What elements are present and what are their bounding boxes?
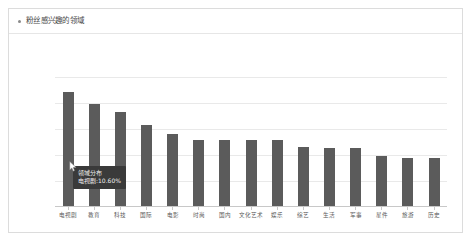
axis-tick xyxy=(251,207,252,210)
bar[interactable] xyxy=(63,92,74,206)
tick-slot xyxy=(238,207,264,211)
axis-tick xyxy=(277,207,278,210)
axis-tick xyxy=(146,207,147,210)
bar-slot[interactable] xyxy=(290,77,316,206)
bar[interactable] xyxy=(272,140,283,206)
page-title: 粉丝感兴趣的领域 xyxy=(26,17,84,25)
axis-tick xyxy=(407,207,408,210)
x-axis-label: 教育 xyxy=(88,213,100,219)
axis-tick xyxy=(68,207,69,210)
x-label-slot: 国际 xyxy=(133,213,159,219)
x-axis-label: 生活 xyxy=(323,213,335,219)
bar[interactable] xyxy=(376,156,387,206)
tooltip-title: 领域分布 xyxy=(78,169,121,177)
bar[interactable] xyxy=(219,140,230,206)
bar-slot[interactable] xyxy=(369,77,395,206)
bar[interactable] xyxy=(89,104,100,206)
axis-tick xyxy=(198,207,199,210)
bar[interactable] xyxy=(324,148,335,206)
x-axis-label: 时尚 xyxy=(193,213,205,219)
axis-tick xyxy=(434,207,435,210)
bar-slot[interactable] xyxy=(316,77,342,206)
bar[interactable] xyxy=(402,158,413,206)
fan-interest-card: 粉丝感兴趣的领域 xyxy=(8,8,463,233)
x-label-slot: 电影 xyxy=(160,213,186,219)
bar-slot[interactable] xyxy=(133,77,159,206)
chart-tooltip: 领域分布 电视剧:10.60% xyxy=(73,166,126,189)
x-label-slot: 生活 xyxy=(316,213,342,219)
bar[interactable] xyxy=(298,147,309,206)
axis-tick xyxy=(303,207,304,210)
x-axis-label: 旅游 xyxy=(402,213,414,219)
bar-slot[interactable] xyxy=(421,77,447,206)
axis-tick xyxy=(224,207,225,210)
tick-slot xyxy=(369,207,395,211)
x-label-slot: 综艺 xyxy=(290,213,316,219)
x-axis-ticks xyxy=(55,207,447,211)
tick-slot xyxy=(107,207,133,211)
x-label-slot: 文化艺术 xyxy=(238,213,264,219)
x-label-slot: 科技 xyxy=(107,213,133,219)
x-axis-label: 文化艺术 xyxy=(239,213,263,219)
pointer-cursor-icon xyxy=(69,158,78,170)
bar-slot[interactable] xyxy=(186,77,212,206)
screenshot-root: 粉丝感兴趣的领域 xyxy=(0,0,471,244)
tick-slot xyxy=(395,207,421,211)
bar-chart: 电视剧 教育 科技 国际 电影 时尚 国内 文化艺术 娱乐 综艺 生活 军事 星… xyxy=(9,35,462,232)
bullet-dot-icon xyxy=(18,20,21,23)
x-axis-label: 娱乐 xyxy=(271,213,283,219)
x-label-slot: 旅游 xyxy=(395,213,421,219)
x-label-slot: 军事 xyxy=(343,213,369,219)
tick-slot xyxy=(55,207,81,211)
x-axis-label: 历史 xyxy=(428,213,440,219)
x-label-slot: 教育 xyxy=(81,213,107,219)
axis-tick xyxy=(94,207,95,210)
bar-slot[interactable] xyxy=(212,77,238,206)
tick-slot xyxy=(160,207,186,211)
tooltip-value: 电视剧:10.60% xyxy=(78,177,121,185)
bar[interactable] xyxy=(193,140,204,206)
bar-slot[interactable] xyxy=(160,77,186,206)
tick-slot xyxy=(186,207,212,211)
x-axis-label: 科技 xyxy=(114,213,126,219)
x-label-slot: 娱乐 xyxy=(264,213,290,219)
x-label-slot: 历史 xyxy=(421,213,447,219)
tick-slot xyxy=(316,207,342,211)
x-axis-label: 综艺 xyxy=(297,213,309,219)
bar-slot[interactable] xyxy=(264,77,290,206)
tick-slot xyxy=(421,207,447,211)
tick-slot xyxy=(212,207,238,211)
axis-tick xyxy=(120,207,121,210)
tick-slot xyxy=(290,207,316,211)
bar[interactable] xyxy=(167,134,178,206)
axis-tick xyxy=(355,207,356,210)
x-axis-labels: 电视剧 教育 科技 国际 电影 时尚 国内 文化艺术 娱乐 综艺 生活 军事 星… xyxy=(55,213,447,219)
bar[interactable] xyxy=(141,125,152,206)
bar[interactable] xyxy=(115,112,126,206)
tick-slot xyxy=(264,207,290,211)
axis-tick xyxy=(381,207,382,210)
x-label-slot: 电视剧 xyxy=(55,213,81,219)
bar[interactable] xyxy=(350,148,361,206)
bar-slot[interactable] xyxy=(238,77,264,206)
bar-slot[interactable] xyxy=(343,77,369,206)
x-axis-label: 电影 xyxy=(167,213,179,219)
axis-tick xyxy=(329,207,330,210)
axis-tick xyxy=(172,207,173,210)
x-label-slot: 星件 xyxy=(369,213,395,219)
tick-slot xyxy=(133,207,159,211)
bar-slot[interactable] xyxy=(395,77,421,206)
x-axis-label: 国内 xyxy=(219,213,231,219)
x-axis-label: 星件 xyxy=(376,213,388,219)
x-axis-label: 国际 xyxy=(140,213,152,219)
bar[interactable] xyxy=(429,158,440,206)
x-label-slot: 时尚 xyxy=(186,213,212,219)
tick-slot xyxy=(343,207,369,211)
x-label-slot: 国内 xyxy=(212,213,238,219)
card-header: 粉丝感兴趣的领域 xyxy=(9,9,462,34)
bar[interactable] xyxy=(246,140,257,206)
x-axis-label: 军事 xyxy=(350,213,362,219)
tick-slot xyxy=(81,207,107,211)
x-axis-label: 电视剧 xyxy=(59,213,77,219)
